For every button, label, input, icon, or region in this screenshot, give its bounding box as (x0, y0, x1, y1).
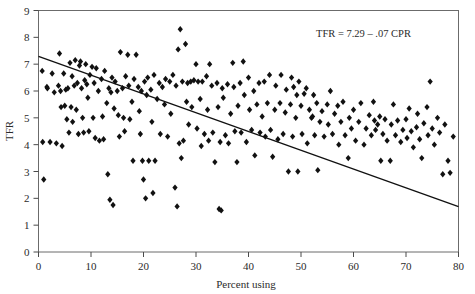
data-point (218, 139, 223, 145)
y-tick-label: 8 (24, 31, 30, 43)
data-point (85, 95, 90, 101)
data-point (278, 72, 283, 78)
data-point (256, 80, 261, 86)
x-tick-label: 40 (243, 260, 255, 272)
data-point (83, 61, 88, 67)
data-point (312, 132, 317, 138)
data-point (421, 120, 426, 126)
data-point (295, 168, 300, 174)
data-point (338, 119, 343, 125)
data-point (101, 136, 106, 142)
data-point (304, 85, 309, 91)
data-point (247, 107, 252, 113)
data-point (125, 52, 130, 58)
data-point (66, 129, 71, 135)
data-point (400, 127, 405, 133)
data-point (307, 107, 312, 113)
data-point (378, 158, 383, 164)
data-point (314, 100, 319, 106)
y-tick-label: 6 (24, 85, 30, 97)
data-point (92, 80, 97, 86)
data-point (349, 125, 354, 131)
data-point (115, 88, 120, 94)
data-point (64, 116, 69, 122)
data-point (40, 68, 45, 74)
data-point (130, 158, 135, 164)
data-point (286, 168, 291, 174)
data-point (90, 115, 95, 121)
chart-canvas: 0123456789 01020304050607080 TFR = 7.29 … (0, 0, 475, 294)
data-point (56, 82, 61, 88)
data-point (277, 100, 282, 106)
data-point (237, 80, 242, 86)
data-point (241, 58, 246, 64)
data-point (143, 195, 148, 201)
data-point (104, 100, 109, 106)
y-axis-title: TFR (3, 120, 15, 141)
data-point (228, 111, 233, 117)
data-point (167, 78, 172, 84)
data-point (177, 140, 182, 146)
data-point (54, 140, 59, 146)
data-point (252, 152, 257, 158)
data-point (105, 171, 110, 177)
data-point (265, 100, 270, 106)
data-point (193, 61, 198, 67)
data-point (391, 101, 396, 107)
data-point (174, 203, 179, 209)
data-point (302, 90, 307, 96)
data-point (268, 127, 273, 133)
data-point (183, 41, 188, 47)
data-point (145, 74, 150, 80)
data-point (398, 139, 403, 145)
data-point (353, 137, 358, 143)
data-point (375, 121, 380, 127)
x-tick-label: 60 (348, 260, 360, 272)
data-point (146, 158, 151, 164)
y-axis-ticks: 0123456789 (24, 5, 39, 259)
data-point (417, 136, 422, 142)
scatter-plot-figure: 0123456789 01020304050607080 TFR = 7.29 … (0, 0, 475, 294)
data-point (168, 111, 173, 117)
data-point (242, 92, 247, 98)
data-point (226, 140, 231, 146)
y-tick-label: 5 (24, 112, 30, 124)
data-point (172, 184, 177, 190)
data-point (118, 49, 123, 55)
data-point (451, 133, 456, 139)
data-point (225, 81, 230, 87)
data-point (204, 73, 209, 79)
data-point (210, 129, 215, 135)
data-point (347, 115, 352, 121)
data-point (336, 141, 341, 147)
data-point (136, 84, 141, 90)
data-point (326, 121, 331, 127)
data-point (389, 121, 394, 127)
data-point (328, 88, 333, 94)
data-point (96, 88, 101, 94)
data-point (404, 135, 409, 141)
data-point (47, 139, 52, 145)
data-point (123, 73, 128, 79)
data-point (100, 113, 105, 119)
x-tick-label: 10 (86, 260, 98, 272)
data-point (199, 143, 204, 149)
data-point (361, 141, 366, 147)
data-point (260, 113, 265, 119)
y-tick-label: 3 (24, 166, 30, 178)
data-point (335, 103, 340, 109)
data-point (202, 131, 207, 137)
y-tick-label: 7 (24, 58, 30, 70)
data-point (178, 26, 183, 32)
data-point (165, 133, 170, 139)
data-point (290, 133, 295, 139)
data-point (221, 95, 226, 101)
data-point (321, 133, 326, 139)
data-point (367, 112, 372, 118)
data-point (93, 135, 98, 141)
x-axis-ticks: 01020304050607080 (36, 252, 465, 272)
data-point (340, 99, 345, 105)
x-tick-label: 70 (401, 260, 413, 272)
data-point (40, 139, 45, 145)
data-point (121, 115, 126, 121)
